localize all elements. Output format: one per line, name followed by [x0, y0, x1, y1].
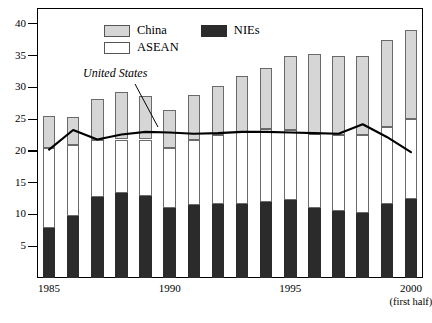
- legend-label-nies: NIEs: [234, 24, 260, 37]
- bar-1997: [332, 8, 345, 278]
- bar-segment-nies: [405, 199, 418, 278]
- nies-swatch-icon: [201, 25, 227, 37]
- bar-segment-china: [115, 92, 128, 140]
- y-axis-tick: [28, 23, 38, 24]
- bar-segment-asean: [43, 148, 56, 229]
- bar-segment-nies: [212, 204, 225, 278]
- y-axis-tick: [28, 150, 38, 151]
- legend-row-1: China NIEs: [104, 22, 260, 39]
- bar-1986: [67, 8, 80, 278]
- bar-segment-china: [260, 68, 273, 128]
- bar-segment-asean: [308, 134, 321, 208]
- bar-segment-asean: [115, 140, 128, 193]
- bar-segment-nies: [67, 216, 80, 278]
- legend-label-china: China: [137, 24, 167, 37]
- bar-segment-nies: [260, 202, 273, 278]
- legend-label-asean: ASEAN: [137, 41, 179, 54]
- bar-segment-nies: [91, 197, 104, 278]
- y-axis-tick: [28, 55, 38, 56]
- chart-legend: China NIEs ASEAN: [104, 22, 260, 56]
- bar-segment-nies: [284, 200, 297, 278]
- bar-segment-nies: [43, 228, 56, 278]
- legend-item-asean: ASEAN: [104, 41, 179, 54]
- y-axis-tick-label: 5: [21, 240, 27, 251]
- bar-segment-nies: [381, 204, 394, 278]
- bar-segment-asean: [188, 140, 201, 205]
- bar-segment-china: [405, 30, 418, 119]
- bar-1987: [91, 8, 104, 278]
- bar-1985: [43, 8, 56, 278]
- bar-segment-asean: [163, 148, 176, 208]
- bar-segment-asean: [67, 145, 80, 216]
- y-axis-tick-label: 25: [15, 113, 26, 124]
- y-axis-tick: [28, 246, 38, 247]
- bar-1996: [308, 8, 321, 278]
- legend-item-china: China: [104, 24, 167, 37]
- bar-segment-china: [163, 110, 176, 149]
- bar-segment-nies: [236, 204, 249, 278]
- y-axis-tick-label: 35: [15, 50, 26, 61]
- y-axis-tick: [28, 214, 38, 215]
- x-axis-tick-label: 1985: [38, 282, 60, 294]
- bar-segment-china: [356, 56, 369, 135]
- bar-segment-china: [236, 76, 249, 132]
- bar-segment-asean: [332, 135, 345, 211]
- bar-segment-asean: [284, 130, 297, 200]
- y-axis-tick-label: 40: [15, 18, 26, 29]
- bar-segment-nies: [115, 193, 128, 278]
- united-states-annotation-label: United States: [83, 67, 147, 80]
- asean-swatch-icon: [104, 42, 130, 54]
- bar-segment-china: [332, 56, 345, 135]
- bar-segment-china: [381, 40, 394, 127]
- x-axis-tick-label: 1995: [279, 282, 301, 294]
- bar-segment-nies: [163, 208, 176, 278]
- legend-item-nies: NIEs: [201, 24, 260, 37]
- bar-1995: [284, 8, 297, 278]
- bar-segment-asean: [236, 132, 249, 204]
- y-axis-tick-label: 15: [15, 177, 26, 188]
- y-axis-tick-label: 20: [15, 145, 26, 156]
- y-axis-tick: [28, 87, 38, 88]
- x-axis-tick-label: 1990: [159, 282, 181, 294]
- bar-segment-china: [188, 95, 201, 140]
- y-axis-tick-label: 30: [15, 81, 26, 92]
- bar-1999: [381, 8, 394, 278]
- bar-segment-china: [43, 116, 56, 148]
- y-axis-tick-label: 10: [15, 208, 26, 219]
- bar-segment-china: [308, 54, 321, 134]
- x-axis-sublabel: (first half): [390, 296, 432, 308]
- bar-segment-china: [284, 56, 297, 130]
- bar-1998: [356, 8, 369, 278]
- bar-segment-nies: [332, 211, 345, 278]
- y-axis-tick: [28, 119, 38, 120]
- y-axis-tick: [28, 182, 38, 183]
- bar-segment-asean: [212, 135, 225, 204]
- bar-segment-china: [91, 99, 104, 140]
- bar-segment-asean: [91, 140, 104, 198]
- bar-segment-asean: [260, 129, 273, 203]
- legend-row-2: ASEAN: [104, 39, 260, 56]
- bar-segment-china: [212, 86, 225, 135]
- bar-segment-nies: [139, 196, 152, 278]
- china-swatch-icon: [104, 25, 130, 37]
- bar-1994: [260, 8, 273, 278]
- bar-segment-nies: [308, 208, 321, 278]
- bar-segment-nies: [356, 213, 369, 278]
- bar-2000: [405, 8, 418, 278]
- bar-segment-asean: [381, 127, 394, 203]
- bar-segment-asean: [356, 135, 369, 213]
- bar-segment-asean: [405, 119, 418, 199]
- bar-segment-asean: [139, 140, 152, 197]
- bar-segment-china: [67, 117, 80, 144]
- x-axis-tick-label: 2000: [400, 282, 422, 294]
- bar-segment-nies: [188, 205, 201, 278]
- bar-segment-china: [139, 96, 152, 139]
